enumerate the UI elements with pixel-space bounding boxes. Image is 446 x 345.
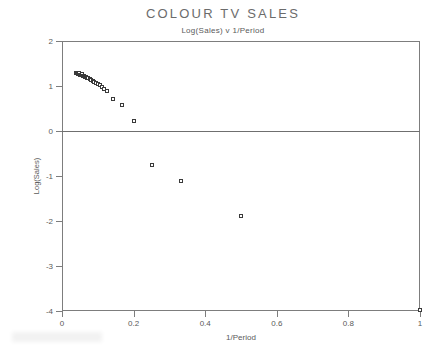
x-tick-mark	[62, 311, 63, 317]
y-tick-mark	[56, 266, 62, 267]
data-point	[239, 214, 243, 218]
y-tick-label: -2	[46, 217, 53, 226]
data-point	[150, 163, 154, 167]
x-tick-mark	[134, 311, 135, 317]
x-tick-label: 0.4	[200, 319, 211, 328]
x-tick-mark	[205, 311, 206, 317]
axis-frame-top	[62, 41, 420, 42]
y-tick-mark	[56, 221, 62, 222]
y-tick-label: 0	[49, 127, 53, 136]
chart-root: COLOUR TV SALES Log(Sales) v 1/Period 21…	[0, 0, 446, 345]
y-tick-mark	[56, 41, 62, 42]
y-tick-label: -4	[46, 307, 53, 316]
x-axis-spine	[62, 310, 420, 311]
y-tick-label: 2	[49, 37, 53, 46]
chart-subtitle: Log(Sales) v 1/Period	[0, 26, 446, 35]
y-tick-label: 1	[49, 82, 53, 91]
data-point	[179, 179, 183, 183]
x-tick-label: 0	[60, 319, 64, 328]
data-point	[111, 97, 115, 101]
x-tick-label: 0.6	[271, 319, 282, 328]
x-tick-mark	[277, 311, 278, 317]
zero-reference-line	[62, 131, 420, 132]
data-point	[105, 89, 109, 93]
x-axis-label: 1/Period	[62, 333, 420, 342]
x-tick-mark	[348, 311, 349, 317]
x-tick-label: 0.8	[343, 319, 354, 328]
x-tick-label: 0.2	[128, 319, 139, 328]
plot-area: 210-1-2-3-4 00.20.40.60.81 Log(Sales) 1/…	[62, 41, 420, 311]
y-tick-label: -1	[46, 172, 53, 181]
y-axis-label: Log(Sales)	[32, 158, 41, 194]
x-tick-mark	[420, 311, 421, 317]
axis-frame-right	[419, 41, 420, 311]
data-point	[120, 103, 124, 107]
data-point	[418, 308, 422, 312]
x-tick-label: 1	[418, 319, 422, 328]
y-tick-mark	[56, 86, 62, 87]
y-tick-label: -3	[46, 262, 53, 271]
data-point	[132, 119, 136, 123]
y-tick-mark	[56, 131, 62, 132]
chart-title: COLOUR TV SALES	[0, 6, 446, 21]
y-tick-mark	[56, 176, 62, 177]
y-axis-spine	[62, 41, 63, 311]
scan-artifact	[12, 332, 102, 342]
